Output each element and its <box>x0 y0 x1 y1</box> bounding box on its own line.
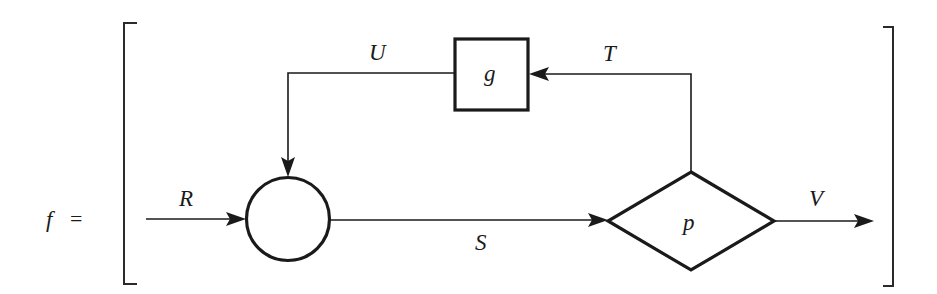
right-bracket <box>883 27 893 286</box>
left-bracket <box>124 23 137 284</box>
node-label-p: p <box>681 210 695 235</box>
edge-s-arrow <box>330 213 608 227</box>
edge-label-v: V <box>809 186 826 211</box>
edge-label-u: U <box>369 40 387 65</box>
edge-label-s: S <box>475 230 487 255</box>
node-label-g: g <box>484 61 496 86</box>
edge-label-r: R <box>178 186 193 211</box>
edge-label-t: T <box>603 41 618 66</box>
edge-t-arrow <box>529 67 691 172</box>
feedback-flow-diagram: f = R S p V T g U <box>0 0 937 294</box>
equals-sign: = <box>70 206 82 231</box>
edge-u-arrow <box>281 73 455 177</box>
summing-junction-circle <box>247 178 330 261</box>
function-name-f: f <box>46 207 56 232</box>
edge-v-arrow <box>774 214 874 228</box>
edge-r-arrow <box>146 212 246 226</box>
